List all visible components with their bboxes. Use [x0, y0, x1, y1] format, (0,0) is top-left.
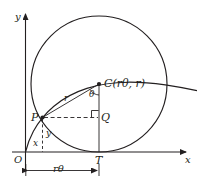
y-axis-label: y — [15, 12, 21, 22]
theta-label: θ — [89, 90, 94, 99]
point-t-label: T — [95, 155, 102, 166]
point-p-label: P — [31, 112, 38, 123]
right-angle-marker — [92, 111, 99, 118]
x-axis-label: x — [185, 155, 191, 165]
point-p-dot — [40, 115, 44, 119]
origin-label: O — [14, 155, 22, 165]
point-q-label: Q — [101, 112, 110, 123]
point-c-label: C(rθ, r) — [104, 78, 145, 89]
y-coordinate-label: y — [46, 129, 51, 138]
radius-label: r — [64, 94, 68, 103]
point-c-dot — [97, 82, 101, 86]
cycloid-diagram: y x O P Q T C(rθ, r) r θ x y rθ — [0, 0, 197, 190]
dimension-label-rtheta: rθ — [53, 164, 64, 174]
x-coordinate-label: x — [33, 139, 38, 148]
